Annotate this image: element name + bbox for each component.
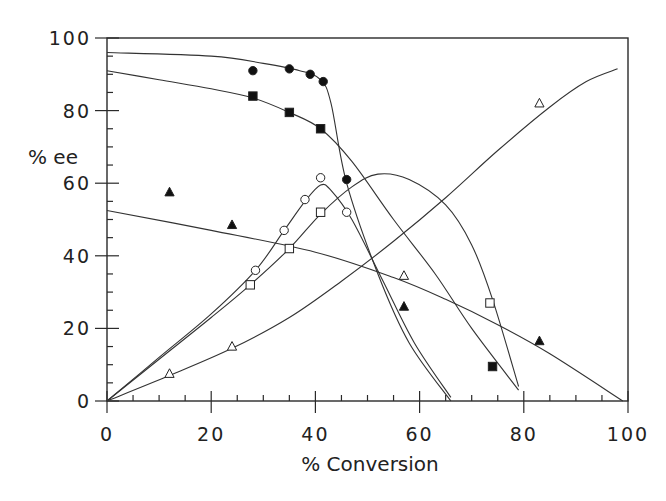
x-tick-label: 80	[510, 423, 538, 445]
square-marker	[285, 108, 293, 116]
triangle-marker	[399, 302, 408, 311]
circle-marker	[342, 175, 350, 183]
triangle-marker	[227, 220, 236, 229]
fit-curve	[107, 69, 618, 401]
x-tick-label: 60	[406, 423, 434, 445]
chart: 020406080100 020406080100 % ee % Convers…	[0, 0, 666, 501]
triangle-marker	[535, 98, 544, 107]
square-marker	[249, 92, 257, 100]
y-tick-label: 40	[63, 245, 91, 267]
fit-curves	[107, 53, 623, 401]
y-tick-label: 20	[63, 317, 91, 339]
y-tick-label: 0	[77, 390, 91, 412]
triangle-marker	[165, 187, 174, 196]
circle-marker	[280, 226, 288, 234]
square-marker	[246, 281, 254, 289]
x-tick-label: 40	[301, 423, 329, 445]
square-marker	[316, 125, 324, 133]
triangle-marker	[535, 336, 544, 345]
circle-marker	[249, 66, 257, 74]
plot-frame	[107, 38, 628, 401]
fit-curve	[107, 174, 519, 401]
x-axis-title: % Conversion	[301, 452, 439, 476]
square-marker	[316, 208, 324, 216]
fit-curve	[107, 71, 519, 390]
circle-marker	[285, 65, 293, 73]
x-tick-label: 20	[197, 423, 225, 445]
square-marker	[285, 244, 293, 252]
circle-marker	[319, 77, 327, 85]
circle-marker	[301, 195, 309, 203]
square-marker	[486, 299, 494, 307]
square-marker	[488, 362, 496, 370]
fit-curve	[107, 184, 451, 401]
y-axis-title: % ee	[28, 145, 78, 169]
x-tick-label: 100	[607, 423, 649, 445]
y-axis: 020406080100	[49, 27, 119, 412]
circle-marker	[306, 70, 314, 78]
x-axis: 020406080100	[100, 391, 649, 445]
y-tick-label: 100	[49, 27, 91, 49]
circle-marker	[342, 208, 350, 216]
circle-marker	[251, 266, 259, 274]
triangle-marker	[165, 369, 174, 378]
circle-marker	[316, 174, 324, 182]
y-tick-label: 60	[63, 172, 91, 194]
data-markers	[165, 65, 544, 378]
x-tick-label: 0	[100, 423, 114, 445]
y-tick-label: 80	[63, 100, 91, 122]
triangle-marker	[227, 342, 236, 351]
triangle-marker	[399, 271, 408, 280]
plot-border	[107, 38, 628, 401]
